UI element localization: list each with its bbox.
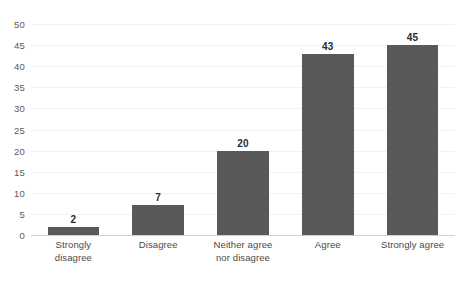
y-tick-label: 35	[14, 82, 25, 93]
x-tick-label: Strongly agree	[370, 239, 455, 264]
x-tick-label-line: Agree	[285, 239, 370, 252]
y-tick-label: 25	[14, 124, 25, 135]
x-tick-label-line: Strongly agree	[370, 239, 455, 252]
x-tick-label-line: nor disagree	[201, 252, 286, 265]
bar-slot[interactable]: 43	[285, 24, 370, 235]
y-tick-label: 0	[20, 230, 25, 241]
y-tick-label: 50	[14, 19, 25, 30]
bar-chart-figure: 05101520253035404550 27204345 Stronglydi…	[0, 0, 467, 289]
bar[interactable]	[217, 151, 269, 235]
bar-slot[interactable]: 20	[201, 24, 286, 235]
x-tick-label-line: Neither agree	[201, 239, 286, 252]
y-tick-label: 40	[14, 61, 25, 72]
axis-baseline	[31, 235, 455, 236]
bar-value-label: 45	[370, 32, 455, 43]
bar-value-label: 20	[201, 138, 286, 149]
bar-value-label: 7	[116, 192, 201, 203]
bar[interactable]	[387, 45, 439, 235]
bar-slot[interactable]: 2	[31, 24, 116, 235]
bar[interactable]	[48, 227, 100, 235]
y-tick-label: 15	[14, 166, 25, 177]
y-tick-label: 10	[14, 187, 25, 198]
y-tick-label: 20	[14, 145, 25, 156]
y-tick-label: 30	[14, 103, 25, 114]
x-tick-label-line: Strongly	[31, 239, 116, 252]
x-tick-label-line: Disagree	[116, 239, 201, 252]
x-tick-label: Agree	[285, 239, 370, 264]
x-tick-label: Neither agreenor disagree	[201, 239, 286, 264]
bar-value-label: 43	[285, 41, 370, 52]
y-tick-label: 5	[20, 208, 25, 219]
x-tick-label-line: disagree	[31, 252, 116, 265]
bar-slot[interactable]: 45	[370, 24, 455, 235]
y-axis: 05101520253035404550	[0, 24, 31, 235]
bar-slot[interactable]: 7	[116, 24, 201, 235]
bar[interactable]	[302, 54, 354, 235]
x-axis: StronglydisagreeDisagreeNeither agreenor…	[31, 239, 455, 264]
y-tick-label: 45	[14, 40, 25, 51]
bar[interactable]	[132, 205, 184, 235]
bars-layer: 27204345	[31, 24, 455, 235]
x-tick-label: Stronglydisagree	[31, 239, 116, 264]
x-tick-label: Disagree	[116, 239, 201, 264]
bar-value-label: 2	[31, 214, 116, 225]
